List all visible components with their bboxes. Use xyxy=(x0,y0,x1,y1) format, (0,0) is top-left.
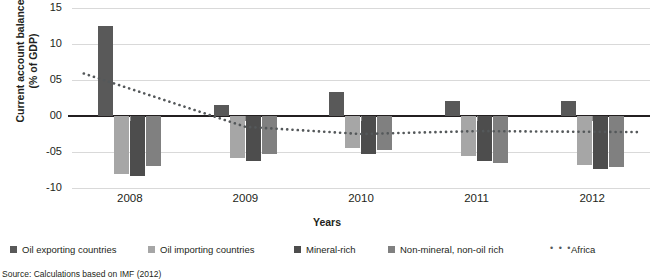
y-axis-tick-label: -05 xyxy=(24,146,62,157)
y-axis-tick-label: 00 xyxy=(24,110,62,121)
y-axis-title: Current account balance (% of GDP) xyxy=(14,0,40,146)
legend-dotted-line-icon: • • • xyxy=(550,241,566,255)
x-axis-tick-label: 2008 xyxy=(70,192,190,204)
legend-item[interactable]: Oil importing countries xyxy=(148,243,255,257)
legend-item[interactable]: Oil exporting countries xyxy=(10,243,117,257)
gridline xyxy=(72,188,650,189)
y-axis-tick-label: 15 xyxy=(24,2,62,13)
africa-trend-line xyxy=(72,8,650,188)
plot-area xyxy=(72,8,650,188)
legend-label: Oil exporting countries xyxy=(22,244,117,255)
x-axis-tick-label: 2012 xyxy=(532,192,652,204)
legend-label: Africa xyxy=(571,244,595,255)
africa-line-path xyxy=(84,74,638,135)
y-axis-title-line1: Current account balance xyxy=(14,0,26,123)
legend-item[interactable]: • • •Africa xyxy=(550,243,595,257)
legend-swatch-icon xyxy=(388,246,395,253)
y-axis-tick-label: 05 xyxy=(24,74,62,85)
legend-label: Oil importing countries xyxy=(160,244,255,255)
source-note: Source: Calculations based on IMF (2012) xyxy=(2,269,161,279)
legend-item[interactable]: Mineral-rich xyxy=(294,243,356,257)
y-axis-tick-label: -10 xyxy=(24,182,62,193)
legend-swatch-icon xyxy=(10,246,17,253)
x-axis-tick-label: 2011 xyxy=(417,192,537,204)
legend-swatch-icon xyxy=(294,246,301,253)
chart-figure: Current account balance (% of GDP) 15100… xyxy=(0,0,654,280)
x-axis-tick-label: 2009 xyxy=(185,192,305,204)
x-axis-tick-label: 2010 xyxy=(301,192,421,204)
y-axis-tick-label: 10 xyxy=(24,38,62,49)
legend-label: Non-mineral, non-oil rich xyxy=(400,244,503,255)
x-axis-title: Years xyxy=(0,216,654,228)
legend-item[interactable]: Non-mineral, non-oil rich xyxy=(388,243,503,257)
chart-legend: Oil exporting countriesOil importing cou… xyxy=(10,243,650,257)
legend-label: Mineral-rich xyxy=(306,244,356,255)
legend-swatch-icon xyxy=(148,246,155,253)
y-axis-title-line2: (% of GDP) xyxy=(27,0,40,146)
